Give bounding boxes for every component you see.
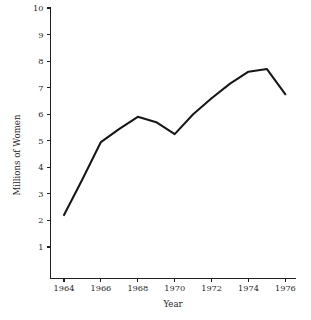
y-tick-label: 10 xyxy=(33,3,43,13)
x-tick-label: 1972 xyxy=(201,283,222,293)
y-tick-label: 3 xyxy=(38,189,43,199)
y-tick-label: 4 xyxy=(38,162,43,172)
x-tick-label: 1968 xyxy=(127,283,148,293)
y-tick-label: 9 xyxy=(38,30,43,40)
line-chart: 12345678910 1964196619681970197219741976… xyxy=(0,0,311,320)
x-axis-label: Year xyxy=(162,299,183,309)
x-tick-label: 1964 xyxy=(54,283,75,293)
x-tick-label: 1966 xyxy=(90,283,111,293)
y-tick-label: 7 xyxy=(38,83,43,93)
y-tick-label: 8 xyxy=(38,56,43,66)
y-tick-label: 6 xyxy=(38,109,43,119)
x-tick-label: 1974 xyxy=(238,283,259,293)
chart-background xyxy=(0,0,311,320)
y-axis-label: Millions of Women xyxy=(12,114,22,195)
chart-canvas: 12345678910 1964196619681970197219741976… xyxy=(0,0,311,320)
y-tick-label: 5 xyxy=(38,136,43,146)
y-tick-label: 1 xyxy=(38,242,43,252)
x-tick-label: 1970 xyxy=(164,283,185,293)
x-tick-label: 1976 xyxy=(275,283,296,293)
y-tick-label: 2 xyxy=(38,215,43,225)
